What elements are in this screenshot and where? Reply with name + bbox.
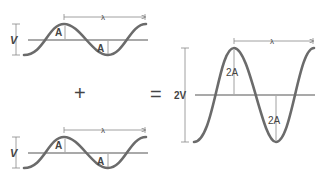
wave-1: V λ A A bbox=[10, 13, 148, 55]
wave1-wavelength-label: λ bbox=[101, 13, 105, 22]
plus-operator: + bbox=[74, 82, 86, 104]
equals-operator: = bbox=[150, 83, 162, 105]
interference-diagram: V λ A A + V λ A A = 2V bbox=[0, 0, 325, 182]
result-height-label: 2V bbox=[174, 90, 187, 101]
result-wavelength-label: λ bbox=[270, 37, 274, 46]
wave2-height-label: V bbox=[10, 147, 19, 159]
wave1-amplitude-label-top: A bbox=[55, 27, 62, 38]
wave2-amplitude-label-bottom: A bbox=[97, 156, 104, 167]
result-wave: 2V λ 2A 2A bbox=[174, 37, 315, 142]
wave-2: V λ A A bbox=[10, 126, 148, 168]
result-amplitude-label-top: 2A bbox=[226, 67, 239, 78]
result-amplitude-label-bottom: 2A bbox=[268, 115, 281, 126]
wave1-amplitude-label-bottom: A bbox=[97, 43, 104, 54]
wave2-amplitude-label-top: A bbox=[55, 140, 62, 151]
wave2-wavelength-label: λ bbox=[101, 126, 105, 135]
wave1-height-label: V bbox=[10, 34, 19, 46]
